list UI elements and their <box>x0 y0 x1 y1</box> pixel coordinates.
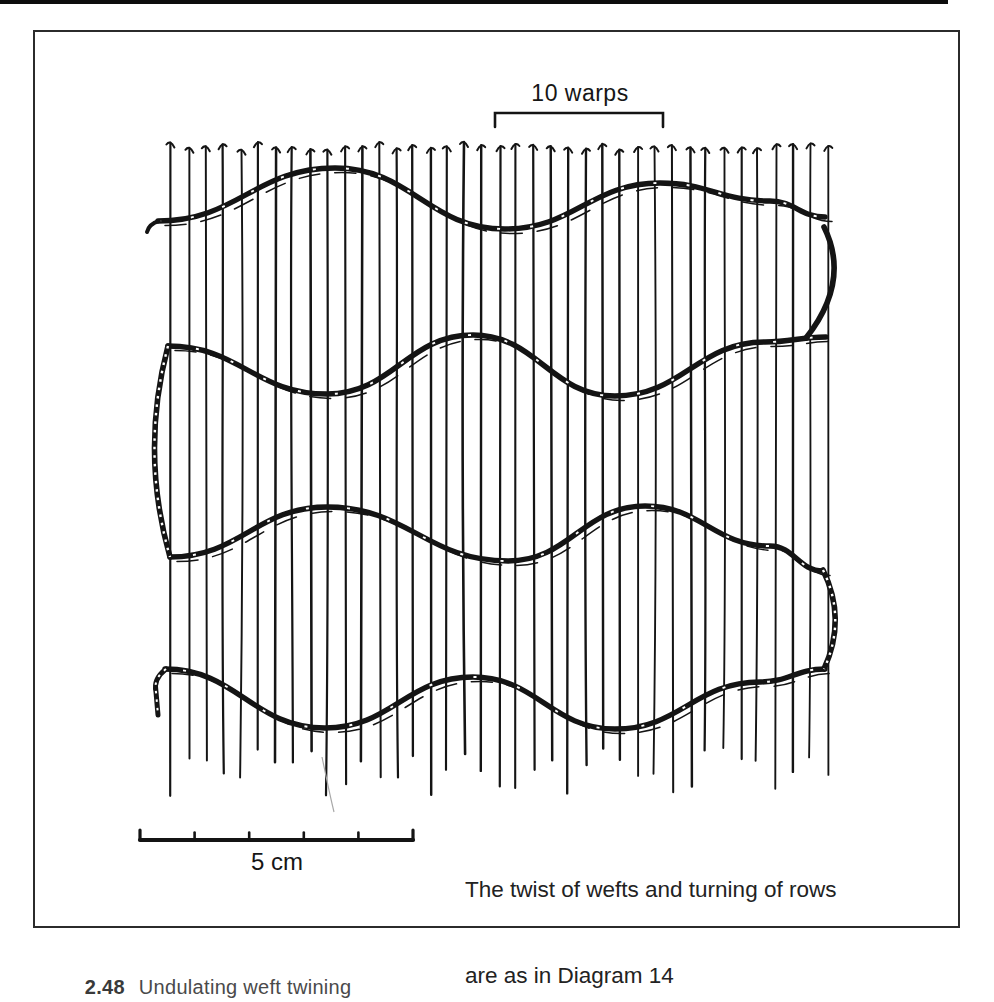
warp-line <box>705 148 706 750</box>
annotation-line-2: are as in Diagram 14 <box>465 962 836 991</box>
caption-number: 2.48 <box>85 976 125 998</box>
warp-line <box>275 148 276 763</box>
warp-line <box>654 147 656 774</box>
warp-line <box>756 148 758 761</box>
warp-line <box>430 148 431 795</box>
warp-line <box>379 142 380 777</box>
figure-caption-cropped: 2.48Undulating weft twining <box>73 953 351 999</box>
warp-count-bracket <box>495 113 663 127</box>
selvedge-loop-left <box>154 346 170 557</box>
warp-line <box>291 147 293 762</box>
warp-line <box>602 144 603 748</box>
warp-line <box>412 145 413 756</box>
warp-line <box>619 150 620 760</box>
warp-line <box>551 146 553 760</box>
warp-line <box>672 145 673 792</box>
warp-line <box>258 142 259 749</box>
weft-start-hook <box>147 221 159 232</box>
warp-line <box>463 142 466 754</box>
weft-companion-strand <box>165 173 832 234</box>
warp-line <box>222 144 223 773</box>
warp-line <box>638 147 639 776</box>
warp-line <box>345 146 346 784</box>
warp-line <box>189 148 190 759</box>
scale-bar-label: 5 cm <box>251 848 303 876</box>
warp-line <box>567 148 568 794</box>
warp-line <box>240 150 243 778</box>
warp-line <box>397 148 398 777</box>
weft-row <box>165 669 825 729</box>
weft-row <box>168 335 826 396</box>
warp-line <box>723 148 725 748</box>
warp-line <box>690 147 692 786</box>
bracket-label: 10 warps <box>531 80 628 107</box>
warp-line <box>775 144 776 788</box>
warp-line <box>206 146 207 760</box>
weft-warp-crossing-breaks <box>168 335 826 396</box>
warp-line <box>500 146 501 786</box>
caption-text: Undulating weft twining <box>139 976 352 998</box>
warp-line <box>809 143 810 757</box>
annotation-line-1: The twist of wefts and turning of rows <box>465 876 836 905</box>
warp-line <box>446 146 447 769</box>
figure-annotation: The twist of wefts and turning of rows a… <box>465 819 836 1002</box>
warp-line <box>170 143 171 796</box>
warp-line <box>515 144 516 788</box>
warp-line <box>326 150 328 796</box>
warp-line <box>310 149 311 751</box>
warp-line <box>741 148 742 760</box>
warp-line <box>361 146 363 761</box>
stray-pencil-mark <box>322 757 334 812</box>
warp-line <box>533 145 534 770</box>
warp-line <box>585 149 587 765</box>
